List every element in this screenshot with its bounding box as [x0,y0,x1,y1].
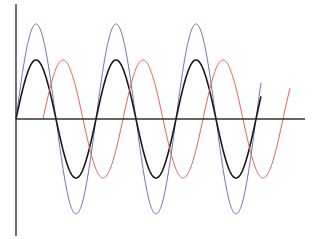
sine-wave-chart [0,0,320,239]
